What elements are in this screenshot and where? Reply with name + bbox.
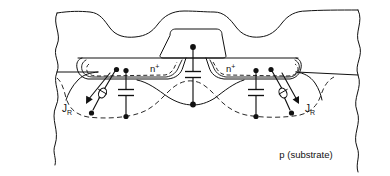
channel-depletion-right <box>193 80 244 105</box>
capacitor-center-group <box>185 44 201 107</box>
capacitor-right-node-top <box>253 68 258 73</box>
capacitor-left-node-top <box>123 68 128 73</box>
capacitor-center-node-bottom <box>190 102 196 108</box>
diode-left-node-bottom <box>89 110 94 115</box>
diode-right-node-bottom <box>289 110 294 115</box>
left-junction-sidewall <box>66 72 98 100</box>
label-nplus-right: n+ <box>226 63 235 75</box>
diode-right-symbol <box>277 87 288 100</box>
leakage-arrow-left-head <box>86 96 93 104</box>
diode-left-group <box>86 67 119 116</box>
oxide-top-surface <box>57 10 358 37</box>
capacitor-center-node-top <box>190 44 196 50</box>
label-p-substrate: p (substrate) <box>279 149 332 160</box>
right-junction-sidewall <box>296 72 322 100</box>
label-nplus-left: n+ <box>150 63 159 75</box>
label-jr-right: JR <box>305 103 315 116</box>
left-torn-edge <box>54 13 58 165</box>
diode-left-symbol <box>97 87 108 100</box>
device-cross-section-figure: n+ n+ JR JR p (substrate) <box>0 0 390 176</box>
capacitor-left-node-bottom <box>123 114 128 119</box>
right-torn-edge <box>356 10 361 172</box>
channel-depletion-left <box>137 80 193 105</box>
diode-left-node-top <box>114 67 119 72</box>
source-depletion-edge <box>87 62 177 76</box>
capacitor-right-node-bottom <box>253 114 258 119</box>
label-jr-left: JR <box>62 103 72 116</box>
cross-section-drawing: n+ n+ JR JR p (substrate) <box>0 0 390 176</box>
diode-right-node-top <box>268 67 273 72</box>
